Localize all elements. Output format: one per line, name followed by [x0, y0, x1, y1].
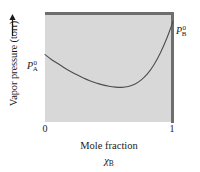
- y-axis-label: Vapor pressure (torr): [8, 8, 19, 120]
- x-axis-label: Mole fraction: [45, 140, 173, 151]
- x-tick-label-1: 1: [165, 123, 179, 134]
- p-b-subscript: B: [182, 30, 187, 38]
- x-axis-symbol-subscript: B: [109, 159, 114, 168]
- vapor-pressure-curve: [45, 12, 173, 122]
- p-b-pure-label: P0B: [176, 24, 186, 38]
- curve-path: [45, 22, 173, 88]
- p-a-subscript: A: [33, 65, 38, 73]
- p-a-pure-label: P0A: [27, 59, 38, 73]
- x-tick-label-0: 0: [38, 123, 52, 134]
- x-axis-symbol: χB: [45, 155, 173, 168]
- vapor-pressure-diagram: Vapor pressure (torr) Mole fraction χB 0…: [0, 0, 200, 172]
